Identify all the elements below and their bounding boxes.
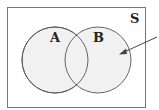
venn-diagram: A B S	[0, 0, 159, 110]
set-b-label: B	[93, 30, 104, 45]
universe-label: S	[130, 11, 139, 26]
set-a-label: A	[49, 30, 61, 45]
